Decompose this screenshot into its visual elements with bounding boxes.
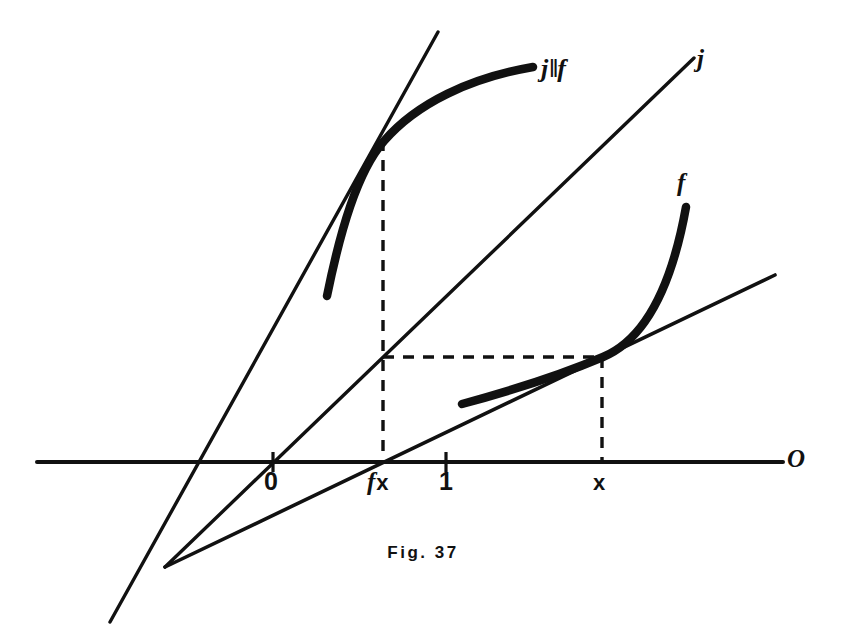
curve-j-parallel-f: [327, 67, 533, 296]
curve-f: [462, 207, 686, 404]
tick-label-fx: fx: [367, 469, 389, 494]
steep-tangent-line: [110, 32, 438, 622]
label-curve-j-parallel-f: j‖f: [541, 56, 566, 82]
tick-label-zero: 0: [264, 469, 278, 494]
tick-label-fx-x: x: [376, 470, 388, 495]
label-axis-origin-o: O: [787, 446, 805, 471]
label-line-j: j: [697, 46, 704, 71]
line-j: [165, 58, 694, 567]
label-parallel-bars: ‖: [549, 54, 556, 83]
shallow-tangent-line: [165, 275, 775, 567]
label-j-part: j: [541, 54, 548, 83]
figure-caption: Fig. 37: [0, 543, 846, 563]
figure-canvas: j‖f j f O 0 fx 1 x Fig. 37: [0, 0, 846, 628]
tick-label-x: x: [593, 472, 605, 494]
figure-drawing: [0, 0, 846, 628]
label-curve-f: f: [677, 170, 685, 195]
tick-label-one: 1: [439, 469, 453, 494]
label-f-part: f: [557, 54, 566, 83]
tick-label-fx-f: f: [367, 468, 375, 495]
